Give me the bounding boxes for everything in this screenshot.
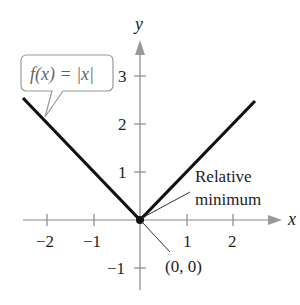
y-tick-label: −1 bbox=[107, 259, 125, 278]
y-tick-label: 2 bbox=[118, 115, 127, 134]
y-axis-arrow-icon bbox=[135, 40, 145, 55]
y-axis bbox=[134, 50, 146, 290]
y-tick-label: 3 bbox=[118, 67, 127, 86]
y-axis-label: y bbox=[133, 14, 143, 34]
point-label: (0, 0) bbox=[165, 257, 202, 276]
x-axis-arrow-icon bbox=[268, 215, 282, 225]
x-tick-label: 2 bbox=[228, 232, 237, 251]
relative-minimum-leader bbox=[142, 192, 190, 218]
y-tick-label: 1 bbox=[118, 163, 127, 182]
function-label: f(x) = |x| bbox=[30, 64, 94, 85]
point-label-leader bbox=[142, 222, 170, 252]
relative-minimum-label-line2: minimum bbox=[195, 190, 261, 209]
chart: x y −2 −1 1 2 3 2 1 −1 Relative minimum … bbox=[0, 0, 300, 305]
relative-minimum-label-line1: Relative bbox=[195, 167, 252, 186]
x-tick-label: −2 bbox=[36, 232, 54, 251]
x-axis-label: x bbox=[287, 209, 296, 229]
chart-svg: x y −2 −1 1 2 3 2 1 −1 Relative minimum … bbox=[0, 0, 300, 305]
x-tick-label: −1 bbox=[83, 232, 101, 251]
x-tick-label: 1 bbox=[183, 232, 192, 251]
